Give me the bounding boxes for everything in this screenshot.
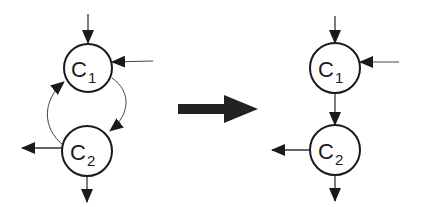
node-c1: C 1 [64, 44, 112, 92]
node-c1-label: C [71, 57, 87, 82]
transform-arrow-icon [178, 95, 258, 123]
r-node-c1: C 1 [310, 43, 360, 93]
node-c2-label: C [70, 140, 86, 165]
r-node-c1-subscript: 1 [335, 69, 343, 86]
c1-right-input-arrow [112, 61, 153, 62]
c2-to-c1-curved-arrow [47, 82, 64, 145]
node-c2: C 2 [62, 126, 112, 176]
c1-to-c2-curved-arrow [110, 78, 126, 131]
r-node-c2: C 2 [310, 125, 360, 175]
diagram-canvas: C 1 C 2 C 1 C 2 [0, 0, 423, 207]
r-node-c1-label: C [318, 57, 334, 82]
r-node-c2-subscript: 2 [335, 151, 343, 168]
left-graph: C 1 C 2 [22, 14, 153, 202]
node-c2-subscript: 2 [87, 152, 95, 169]
node-c1-subscript: 1 [88, 69, 96, 86]
r-node-c2-label: C [318, 139, 334, 164]
right-graph: C 1 C 2 [272, 16, 399, 201]
